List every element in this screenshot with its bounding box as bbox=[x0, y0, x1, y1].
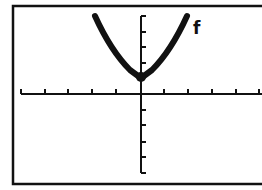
graph-screen: f bbox=[0, 0, 262, 190]
vertex-point bbox=[136, 72, 146, 82]
curve-label: f bbox=[193, 18, 201, 38]
